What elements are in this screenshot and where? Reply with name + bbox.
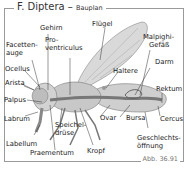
label-arista: Arista bbox=[5, 80, 25, 88]
figure-caption: Abb. 36.91 bbox=[141, 155, 180, 163]
label-fluegel: Flügel bbox=[92, 21, 113, 29]
label-cercus: Cercus bbox=[160, 116, 183, 124]
label-malpighi-2: Gefäß bbox=[149, 42, 169, 50]
label-speicheldruese-2: drüse bbox=[55, 130, 74, 138]
label-bursa: Bursa bbox=[126, 115, 145, 123]
label-gehirn: Gehirn bbox=[40, 25, 63, 33]
label-facettenauge-2: auge bbox=[6, 50, 23, 58]
label-geschlechtsoeffnung-2: öffnung bbox=[137, 143, 163, 151]
label-ovar: Ovar bbox=[100, 115, 116, 123]
label-labrum: Labrum bbox=[4, 116, 30, 124]
label-labellum: Labellum bbox=[6, 141, 37, 149]
label-ocellus: Ocellus bbox=[5, 66, 30, 74]
label-praementum: Praementum bbox=[30, 150, 74, 158]
label-darm: Darm bbox=[155, 59, 174, 67]
label-kropf: Kropf bbox=[87, 148, 105, 156]
label-proventriculus-2: ventriculus bbox=[45, 45, 83, 53]
label-rektum: Rektum bbox=[156, 86, 182, 94]
label-haltere: Haltere bbox=[113, 68, 138, 76]
wing-shape bbox=[78, 22, 147, 88]
label-palpus: Palpus bbox=[4, 97, 26, 105]
